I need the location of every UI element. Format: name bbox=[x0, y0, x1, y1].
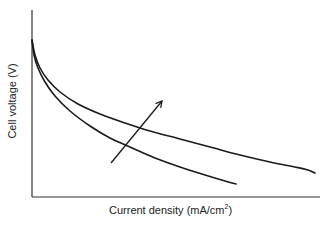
y-axis-label: Cell voltage (V) bbox=[0, 0, 24, 227]
lower-curve bbox=[32, 40, 236, 184]
upper-curve bbox=[32, 40, 315, 173]
chart-canvas bbox=[0, 0, 335, 227]
y-axis-label-text: Cell voltage (V) bbox=[6, 63, 18, 138]
x-axis-label: Current density (mA/cm2) bbox=[109, 203, 232, 216]
x-axis-label-text: Current density (mA/cm bbox=[109, 204, 225, 216]
x-axis-label-tail: ) bbox=[228, 204, 232, 216]
